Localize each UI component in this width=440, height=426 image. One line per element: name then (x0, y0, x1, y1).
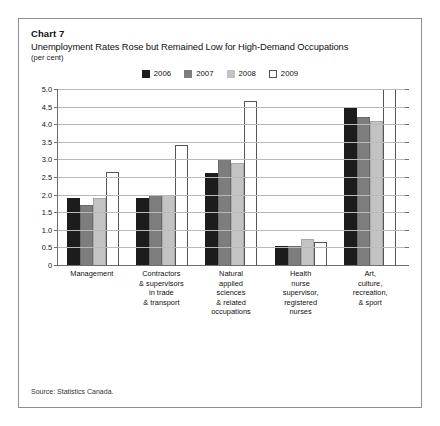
x-axis-label-line: & sport (337, 298, 403, 308)
x-axis-label-line: Management (59, 269, 125, 279)
chart-number: Chart 7 (31, 28, 64, 39)
bar-2006 (344, 107, 357, 265)
gridline (58, 195, 405, 196)
page-background: Chart 7 Unemployment Rates Rose but Rema… (0, 0, 440, 426)
y-tick-mark-left (54, 107, 58, 108)
y-tick-mark-left (54, 177, 58, 178)
x-axis-label-line: supervisor, (268, 288, 334, 298)
y-tick-mark-right (405, 195, 409, 196)
legend-item-2007: 2007 (184, 69, 213, 78)
x-axis-label-line: in trade (128, 288, 194, 298)
y-tick-mark-right (405, 177, 409, 178)
x-axis-label-line: nurse (268, 279, 334, 289)
y-tick-mark-right (405, 265, 409, 266)
y-tick-mark-right (405, 212, 409, 213)
bar-2007 (80, 205, 93, 265)
y-axis-labels: 00.51.01.52.02.53.03.54.04.55.0 (31, 89, 55, 265)
x-axis-label-line: recreation, (337, 288, 403, 298)
y-tick-mark-left (54, 124, 58, 125)
y-tick-label: 4.5 (42, 102, 52, 111)
y-tick-mark-left (54, 247, 58, 248)
y-tick-mark-left (54, 230, 58, 231)
legend-item-2008: 2008 (227, 69, 256, 78)
bar-2006 (67, 198, 80, 265)
legend-swatch-2009 (269, 70, 277, 78)
legend-label-2007: 2007 (196, 69, 213, 78)
bar-2006 (205, 173, 218, 265)
legend-label-2008: 2008 (239, 69, 256, 78)
gridline (58, 247, 405, 248)
x-axis-label-line: Art, (337, 269, 403, 279)
x-axis-label-line: culture, (337, 279, 403, 289)
x-axis-label-line: & transport (128, 298, 194, 308)
x-axis-label: Healthnursesupervisor,registerednurses (268, 269, 334, 317)
y-tick-mark-left (54, 195, 58, 196)
x-axis-label-line: Contractors (128, 269, 194, 279)
legend-swatch-2006 (142, 70, 150, 78)
y-tick-label: 3.5 (42, 137, 52, 146)
bar-2009 (314, 242, 327, 265)
legend-swatch-2007 (184, 70, 192, 78)
plot-area (57, 89, 405, 266)
bar-2007 (357, 117, 370, 265)
bar-2006 (136, 198, 149, 265)
y-tick-mark-right (405, 159, 409, 160)
x-axis-label-line: nurses (268, 307, 334, 317)
gridline (58, 230, 405, 231)
y-tick-mark-left (54, 159, 58, 160)
bar-2009 (244, 101, 257, 265)
gridline (58, 89, 405, 90)
y-tick-mark-right (405, 142, 409, 143)
x-axis-label-line: applied (198, 279, 264, 289)
bar-2008 (231, 163, 244, 265)
y-tick-label: 2.0 (42, 190, 52, 199)
x-axis-label-line: Health (268, 269, 334, 279)
x-axis-label: Naturalappliedsciences& relatedoccupatio… (198, 269, 264, 317)
x-axis-label-line: registered (268, 298, 334, 308)
x-axis-label: Management (59, 269, 125, 317)
source-note: Source: Statistics Canada. (31, 388, 114, 395)
y-tick-mark-right (405, 89, 409, 90)
bar-2009 (106, 172, 119, 265)
x-axis-label-line: & related (198, 298, 264, 308)
gridline (58, 159, 405, 160)
y-tick-mark-right (405, 247, 409, 248)
plot-wrapper: 00.51.01.52.02.53.03.54.04.55.0 Manageme… (31, 89, 411, 289)
y-tick-label: 1.0 (42, 225, 52, 234)
gridline (58, 212, 405, 213)
x-axis-label: Contractors& supervisorsin trade& transp… (128, 269, 194, 317)
legend-label-2009: 2009 (281, 69, 298, 78)
x-axis-label: Art,culture,recreation,& sport (337, 269, 403, 317)
gridline (58, 124, 405, 125)
legend-swatch-2008 (227, 70, 235, 78)
y-tick-mark-left (54, 89, 58, 90)
gridline (58, 177, 405, 178)
bar-2008 (301, 239, 314, 265)
y-tick-mark-right (405, 124, 409, 125)
gridline (58, 142, 405, 143)
y-tick-label: 2.5 (42, 173, 52, 182)
y-tick-label: 4.0 (42, 120, 52, 129)
x-axis-label-line: Natural (198, 269, 264, 279)
y-tick-mark-left (54, 212, 58, 213)
chart-legend: 2006200720082009 (19, 69, 421, 78)
gridline (58, 107, 405, 108)
y-tick-label: 0.5 (42, 243, 52, 252)
y-tick-label: 5.0 (42, 85, 52, 94)
legend-item-2009: 2009 (269, 69, 298, 78)
legend-item-2006: 2006 (142, 69, 171, 78)
x-axis-label-line: sciences (198, 288, 264, 298)
y-tick-mark-left (54, 142, 58, 143)
bar-2007 (288, 246, 301, 265)
legend-label-2006: 2006 (154, 69, 171, 78)
y-tick-label: 1.5 (42, 208, 52, 217)
y-tick-label: 3.0 (42, 155, 52, 164)
chart-panel: Chart 7 Unemployment Rates Rose but Rema… (18, 18, 422, 408)
chart-title: Unemployment Rates Rose but Remained Low… (31, 41, 348, 52)
y-tick-mark-right (405, 230, 409, 231)
chart-units-label: (per cent) (31, 53, 64, 62)
bar-2008 (93, 198, 106, 265)
x-axis-labels: ManagementContractors& supervisorsin tra… (57, 269, 405, 317)
x-axis-label-line: & supervisors (128, 279, 194, 289)
y-tick-mark-right (405, 107, 409, 108)
